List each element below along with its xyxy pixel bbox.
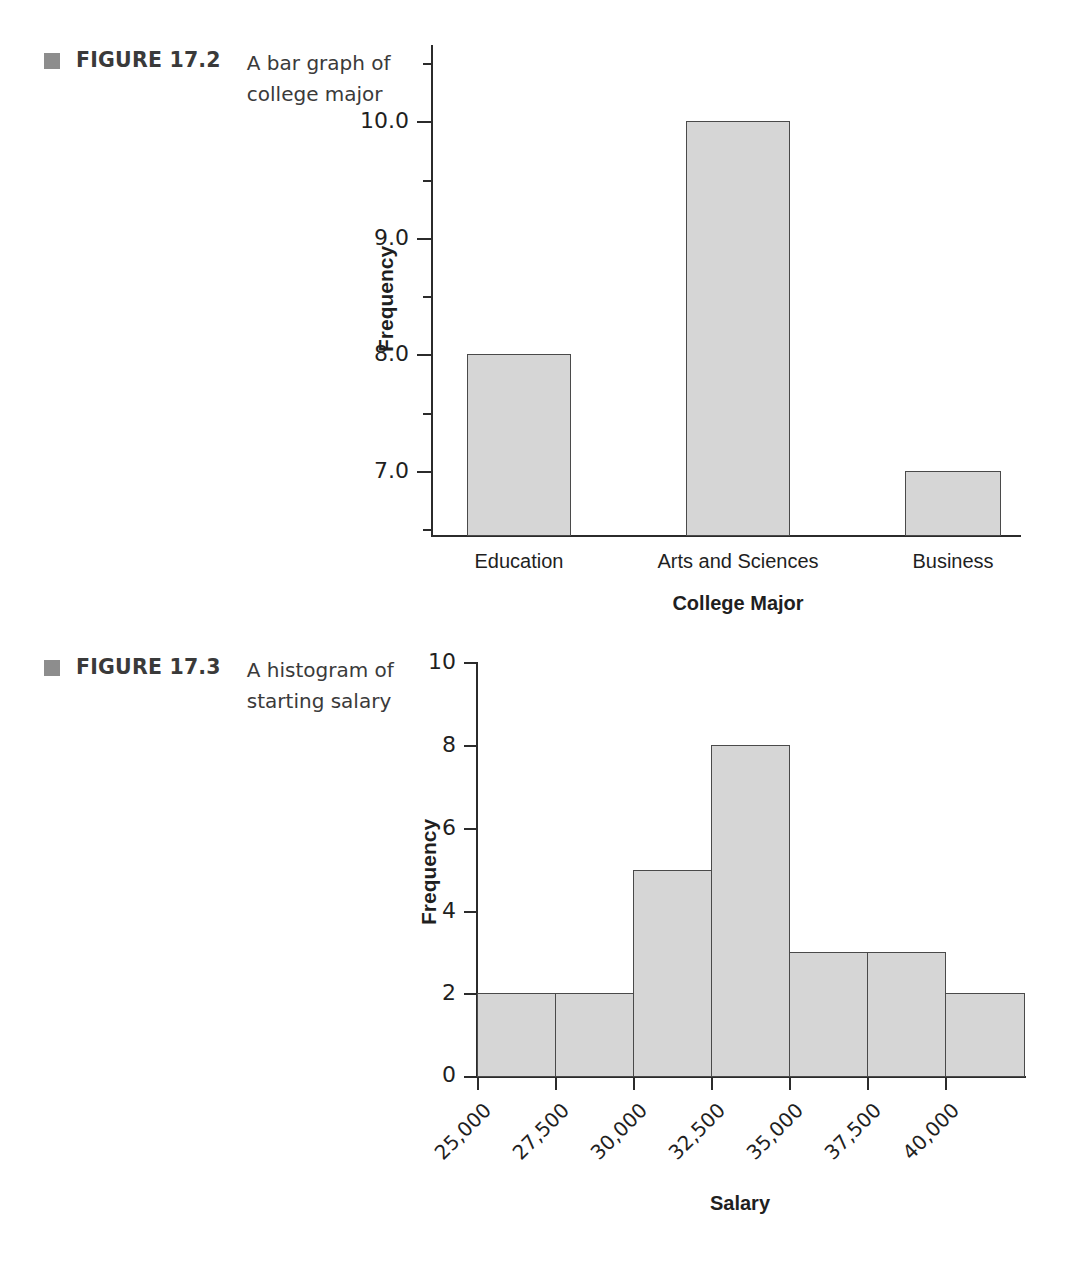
histogram-starting-salary: 10 8 6 4 2 0 Frequency 25,000 27,500 30,… (0, 0, 1066, 1264)
y-major-tick (464, 993, 477, 995)
x-major-tick (477, 1077, 479, 1090)
y-axis-title-2: Frequency (417, 819, 441, 925)
y-major-tick (464, 911, 477, 913)
y-major-tick (464, 1076, 477, 1078)
x-major-tick (867, 1077, 869, 1090)
x-major-tick (555, 1077, 557, 1090)
y-major-tick (464, 662, 477, 664)
y-tick-label: 0 (388, 1062, 456, 1087)
y-tick-label: 2 (388, 980, 456, 1005)
y-major-tick (464, 745, 477, 747)
histogram-bar (555, 993, 634, 1077)
x-major-tick (945, 1077, 947, 1090)
histogram-bar (477, 993, 556, 1077)
y-tick-label: 8 (388, 732, 456, 757)
x-major-tick (711, 1077, 713, 1090)
histogram-bar (633, 870, 712, 1077)
y-tick-label: 10 (388, 649, 456, 674)
x-major-tick (633, 1077, 635, 1090)
x-axis-title-2: Salary (640, 1192, 840, 1215)
histogram-bar (711, 745, 790, 1077)
histogram-bar (945, 993, 1025, 1077)
histogram-bar (789, 952, 868, 1077)
y-major-tick (464, 828, 477, 830)
histogram-bar (867, 952, 946, 1077)
x-major-tick (789, 1077, 791, 1090)
